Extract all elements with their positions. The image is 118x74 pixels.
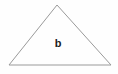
geometry-figure-canvas: b bbox=[0, 0, 118, 74]
triangle-outline bbox=[9, 5, 111, 65]
triangle-diagram-svg: b bbox=[0, 0, 118, 74]
side-label-b: b bbox=[55, 37, 62, 49]
